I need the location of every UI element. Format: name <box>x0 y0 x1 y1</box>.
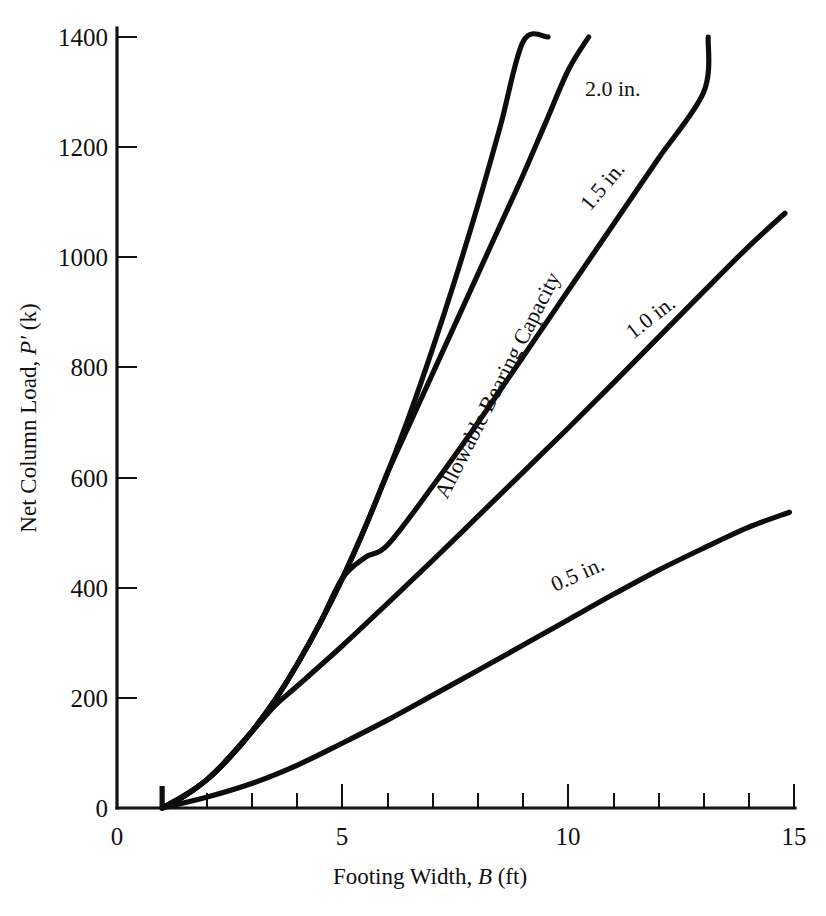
y-tick-label-0: 0 <box>96 795 109 822</box>
y-tick-label-1400: 1400 <box>58 24 108 51</box>
series-1-0-in <box>162 213 785 808</box>
x-axis-title-suffix: (ft) <box>492 864 527 889</box>
x-tick-label-15: 15 <box>782 823 807 850</box>
annotation-0-5-in: 0.5 in. <box>547 551 608 596</box>
x-tick-label-10: 10 <box>556 823 581 850</box>
y-axis-title-prefix: Net Column Load, <box>16 355 41 533</box>
x-tick-label-5: 5 <box>336 823 349 850</box>
x-tick-label-0: 0 <box>111 823 124 850</box>
y-tick-label-600: 600 <box>71 465 109 492</box>
annotation-1-5-in: 1.5 in. <box>575 157 630 216</box>
x-axis-title: Footing Width, B (ft) <box>333 864 527 889</box>
y-axis-title: Net Column Load, P′ (k) <box>16 303 41 532</box>
y-tick-label-1200: 1200 <box>58 134 108 161</box>
x-axis-title-variable: B <box>478 864 492 889</box>
annotation-2-0-in: 2.0 in. <box>585 76 641 101</box>
series-0-5-in <box>162 512 789 808</box>
y-tick-label-200: 200 <box>71 685 109 712</box>
series-2-0-in <box>162 37 589 808</box>
y-axis-title-variable: P <box>16 341 41 356</box>
y-tick-label-400: 400 <box>71 575 109 602</box>
chart-svg: 1400 1200 1000 800 600 400 200 0 <box>0 0 826 916</box>
y-axis-ticks <box>117 37 137 698</box>
x-axis-major-ticks <box>342 784 794 808</box>
annotation-1-0-in: 1.0 in. <box>621 290 680 344</box>
x-axis-title-prefix: Footing Width, <box>333 864 478 889</box>
x-axis-minor-ticks <box>162 793 749 808</box>
chart-figure: 1400 1200 1000 800 600 400 200 0 <box>0 0 826 916</box>
y-tick-label-1000: 1000 <box>58 244 108 271</box>
y-axis-title-suffix: (k) <box>16 303 41 336</box>
y-tick-label-800: 800 <box>71 354 109 381</box>
